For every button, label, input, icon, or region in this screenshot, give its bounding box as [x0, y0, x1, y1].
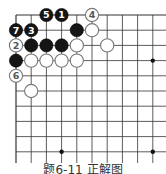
- white-stone-6: 6: [9, 69, 22, 82]
- black-stone: [9, 54, 22, 67]
- white-stone: [40, 54, 53, 67]
- white-stone: [85, 24, 98, 37]
- black-stone-1: 1: [55, 8, 68, 21]
- white-stone: [70, 39, 83, 52]
- black-stone: [55, 39, 68, 52]
- white-stone: [101, 39, 114, 52]
- white-stone: [55, 54, 68, 67]
- black-stone: [40, 39, 53, 52]
- black-stone: [25, 39, 38, 52]
- black-stone-3: 3: [25, 24, 38, 37]
- white-stone: [25, 54, 38, 67]
- move-number: 6: [13, 70, 20, 81]
- white-stone-4: 4: [85, 8, 98, 21]
- star-point: [151, 58, 155, 62]
- black-stone: [70, 24, 83, 37]
- move-number: 5: [43, 9, 50, 20]
- diagram-caption: 题6-11 正解图: [0, 163, 166, 174]
- move-number: 1: [58, 9, 65, 20]
- move-number: 3: [28, 25, 35, 36]
- star-point: [151, 150, 155, 154]
- go-board-diagram: 5147326: [0, 0, 166, 166]
- move-number: 2: [13, 40, 20, 51]
- move-number: 7: [13, 25, 20, 36]
- white-stone-2: 2: [9, 39, 22, 52]
- move-number: 4: [89, 9, 96, 20]
- black-stone-7: 7: [9, 24, 22, 37]
- star-point: [59, 150, 63, 154]
- white-stone: [70, 54, 83, 67]
- white-stone: [25, 84, 38, 97]
- black-stone-5: 5: [40, 8, 53, 21]
